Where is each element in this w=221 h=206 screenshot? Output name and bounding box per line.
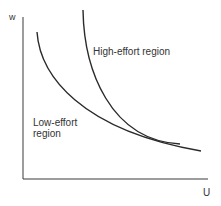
x-axis-label: U — [203, 187, 210, 198]
diagram-canvas — [0, 0, 221, 206]
high-effort-curve — [83, 10, 180, 144]
high-effort-region-label: High-effort region — [93, 46, 170, 57]
y-axis-label: w — [9, 12, 16, 23]
low-effort-region-label-line2: region — [33, 128, 61, 139]
low-effort-region-label-line1: Low-effort — [33, 117, 77, 128]
